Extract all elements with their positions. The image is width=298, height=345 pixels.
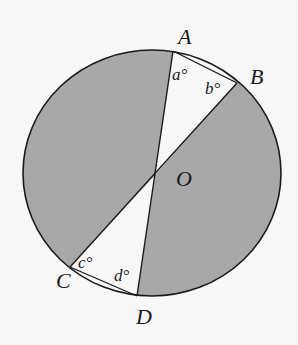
circle-disk bbox=[23, 50, 281, 296]
angle-label-a: a° bbox=[172, 65, 188, 84]
label-center-o: O bbox=[176, 166, 192, 191]
angle-label-b: b° bbox=[205, 79, 221, 98]
label-point-d: D bbox=[135, 304, 152, 329]
label-point-b: B bbox=[250, 64, 263, 89]
label-point-a: A bbox=[176, 24, 192, 49]
label-point-c: C bbox=[56, 268, 71, 293]
circle-diagram: A B C D O a° b° c° d° bbox=[0, 0, 298, 345]
angle-label-d: d° bbox=[114, 266, 130, 285]
angle-label-c: c° bbox=[78, 253, 93, 272]
